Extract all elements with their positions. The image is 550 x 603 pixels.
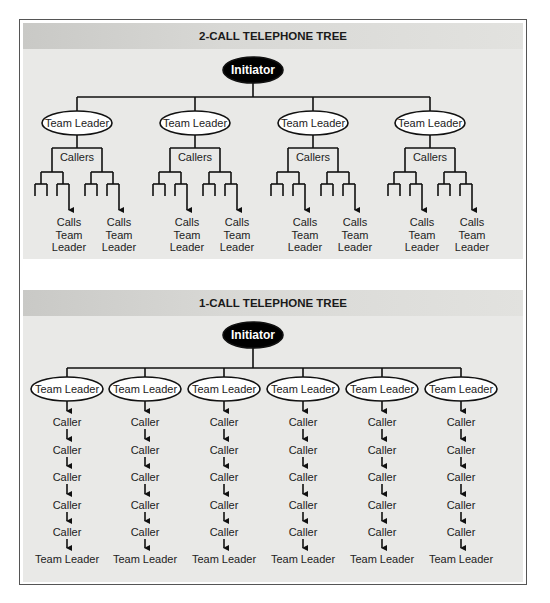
calls-team-leader-label: Leader <box>52 241 87 253</box>
end-team-leader-label: Team Leader <box>350 553 415 565</box>
caller-label: Caller <box>131 499 160 511</box>
team-leader-node-label: Team Leader <box>271 383 336 395</box>
end-team-leader-label: Team Leader <box>271 553 336 565</box>
calls-team-leader-label: Team <box>342 229 369 241</box>
end-team-leader-label: Team Leader <box>192 553 257 565</box>
calls-team-leader-label: Team <box>292 229 319 241</box>
team-leader-node-label: Team Leader <box>429 383 494 395</box>
end-team-leader-label: Team Leader <box>113 553 178 565</box>
calls-team-leader-label: Team <box>106 229 133 241</box>
initiator-node: Initiator <box>223 322 283 348</box>
caller-label: Caller <box>289 526 318 538</box>
caller-label: Caller <box>447 499 476 511</box>
caller-label: Caller <box>447 444 476 456</box>
initiator-node-label: Initiator <box>231 328 275 342</box>
calls-team-leader-label: Team <box>459 229 486 241</box>
initiator-node: Initiator <box>223 57 283 83</box>
calls-team-leader-label: Calls <box>175 216 200 228</box>
caller-label: Caller <box>368 416 397 428</box>
calls-team-leader-label: Leader <box>455 241 490 253</box>
caller-label: Caller <box>53 499 82 511</box>
one-call-branch: Team LeaderCallerCallerCallerCallerCalle… <box>425 368 497 565</box>
one-call-branch: Team LeaderCallerCallerCallerCallerCalle… <box>109 368 181 565</box>
calls-team-leader-label: Calls <box>293 216 318 228</box>
callers-label: Callers <box>60 151 95 163</box>
caller-label: Caller <box>447 471 476 483</box>
caller-label: Caller <box>53 471 82 483</box>
caller-label: Caller <box>131 526 160 538</box>
team-leader-node: Team Leader <box>160 111 230 135</box>
calls-team-leader-label: Leader <box>220 241 255 253</box>
calls-team-leader-label: Leader <box>288 241 323 253</box>
telephone-tree-diagram: Team LeaderCallersCallsTeamLeaderCallsTe… <box>0 0 550 603</box>
caller-label: Caller <box>53 444 82 456</box>
team-leader-node: Team Leader <box>395 111 465 135</box>
two-call-branch: Team LeaderCallersCallsTeamLeaderCallsTe… <box>388 97 489 253</box>
caller-label: Caller <box>368 499 397 511</box>
caller-label: Caller <box>368 471 397 483</box>
calls-team-leader-label: Calls <box>107 216 132 228</box>
calls-team-leader-label: Team <box>409 229 436 241</box>
caller-label: Caller <box>210 471 239 483</box>
calls-team-leader-label: Calls <box>460 216 485 228</box>
caller-label: Caller <box>53 526 82 538</box>
two-call-branch: Team LeaderCallersCallsTeamLeaderCallsTe… <box>153 97 254 253</box>
one-call-branch: Team LeaderCallerCallerCallerCallerCalle… <box>346 368 418 565</box>
team-leader-node: Team Leader <box>278 111 348 135</box>
two-call-tree: Team LeaderCallersCallsTeamLeaderCallsTe… <box>35 57 489 253</box>
team-leader-node: Team Leader <box>188 377 260 401</box>
team-leader-node-label: Team Leader <box>398 117 463 129</box>
initiator-node-label: Initiator <box>231 63 275 77</box>
calls-team-leader-label: Team <box>224 229 251 241</box>
team-leader-node-label: Team Leader <box>113 383 178 395</box>
one-call-branch: Team LeaderCallerCallerCallerCallerCalle… <box>188 368 260 565</box>
callers-label: Callers <box>413 151 448 163</box>
caller-label: Caller <box>289 416 318 428</box>
team-leader-node: Team Leader <box>109 377 181 401</box>
team-leader-node-label: Team Leader <box>192 383 257 395</box>
calls-team-leader-label: Calls <box>410 216 435 228</box>
caller-label: Caller <box>131 416 160 428</box>
caller-label: Caller <box>289 444 318 456</box>
calls-team-leader-label: Team <box>174 229 201 241</box>
team-leader-node: Team Leader <box>42 111 112 135</box>
calls-team-leader-label: Team <box>56 229 83 241</box>
one-call-branch: Team LeaderCallerCallerCallerCallerCalle… <box>267 368 339 565</box>
calls-team-leader-label: Calls <box>57 216 82 228</box>
caller-label: Caller <box>368 444 397 456</box>
team-leader-node-label: Team Leader <box>281 117 346 129</box>
callers-label: Callers <box>178 151 213 163</box>
team-leader-node: Team Leader <box>425 377 497 401</box>
team-leader-node: Team Leader <box>267 377 339 401</box>
caller-label: Caller <box>210 499 239 511</box>
caller-label: Caller <box>289 471 318 483</box>
one-call-branch: Team LeaderCallerCallerCallerCallerCalle… <box>31 368 103 565</box>
team-leader-node-label: Team Leader <box>45 117 110 129</box>
callers-label: Callers <box>296 151 331 163</box>
caller-label: Caller <box>289 499 318 511</box>
one-call-tree: Team LeaderCallerCallerCallerCallerCalle… <box>31 322 497 565</box>
team-leader-node-label: Team Leader <box>350 383 415 395</box>
two-call-branch: Team LeaderCallersCallsTeamLeaderCallsTe… <box>35 97 136 253</box>
calls-team-leader-label: Leader <box>405 241 440 253</box>
caller-label: Caller <box>210 526 239 538</box>
caller-label: Caller <box>210 416 239 428</box>
team-leader-node: Team Leader <box>346 377 418 401</box>
caller-label: Caller <box>131 444 160 456</box>
caller-label: Caller <box>53 416 82 428</box>
team-leader-node-label: Team Leader <box>163 117 228 129</box>
calls-team-leader-label: Calls <box>343 216 368 228</box>
calls-team-leader-label: Calls <box>225 216 250 228</box>
end-team-leader-label: Team Leader <box>429 553 494 565</box>
caller-label: Caller <box>131 471 160 483</box>
end-team-leader-label: Team Leader <box>35 553 100 565</box>
calls-team-leader-label: Leader <box>102 241 137 253</box>
calls-team-leader-label: Leader <box>170 241 205 253</box>
caller-label: Caller <box>447 526 476 538</box>
team-leader-node: Team Leader <box>31 377 103 401</box>
calls-team-leader-label: Leader <box>338 241 373 253</box>
team-leader-node-label: Team Leader <box>35 383 100 395</box>
caller-label: Caller <box>447 416 476 428</box>
caller-label: Caller <box>210 444 239 456</box>
two-call-branch: Team LeaderCallersCallsTeamLeaderCallsTe… <box>271 97 372 253</box>
